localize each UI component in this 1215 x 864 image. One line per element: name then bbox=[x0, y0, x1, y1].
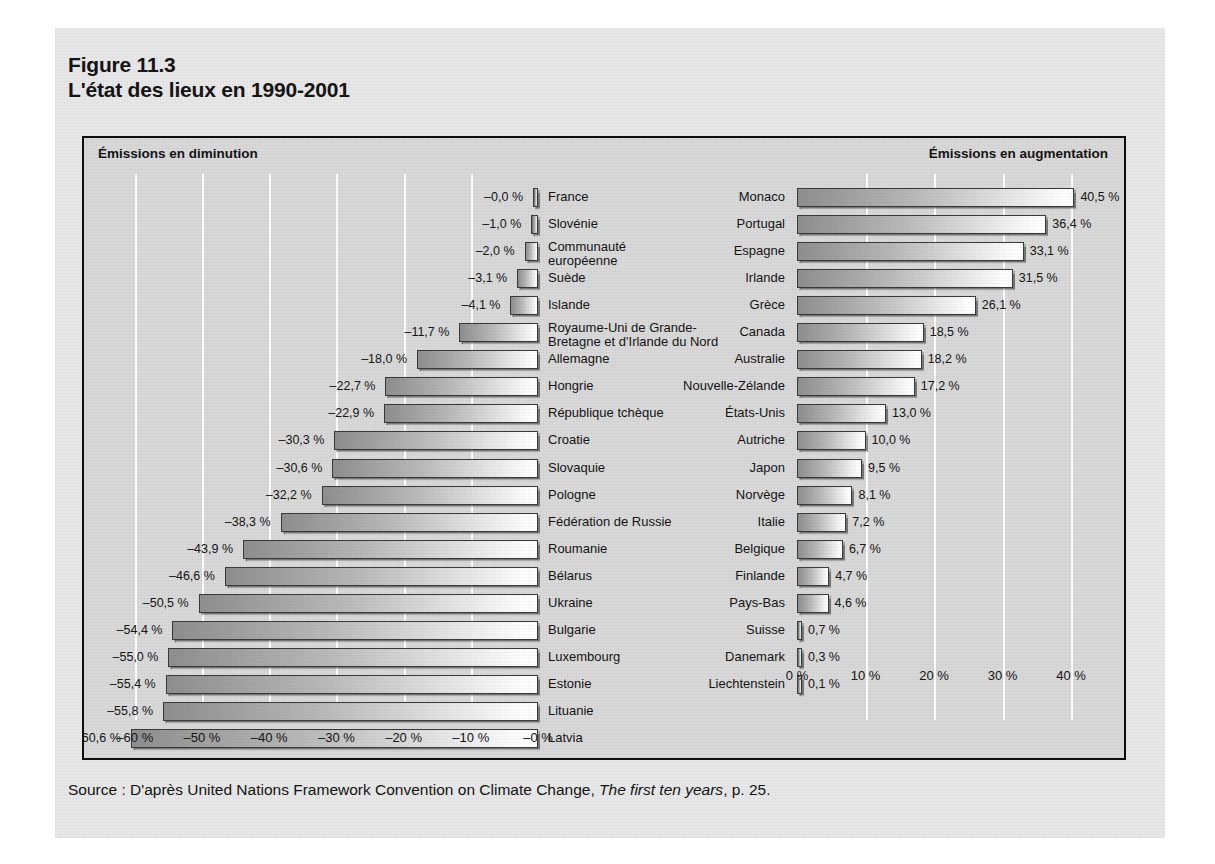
x-tick-increasing: 20 % bbox=[919, 668, 949, 683]
bar-row-increasing: 7,2 %Italie bbox=[84, 513, 1124, 532]
bar-Norvège bbox=[797, 486, 852, 505]
bar-row-increasing: 0,7 %Suisse bbox=[84, 621, 1124, 640]
bar-row-increasing: 4,7 %Finlande bbox=[84, 567, 1124, 586]
bar-Nouvelle-Zélande bbox=[797, 377, 915, 396]
bar-label-Pays-Bas: Pays-Bas bbox=[729, 596, 785, 610]
bar-value-Nouvelle-Zélande: 17,2 % bbox=[921, 377, 960, 396]
bar-Danemark bbox=[797, 648, 802, 667]
source-note: Source : D'après United Nations Framewor… bbox=[68, 780, 771, 800]
bar-label-Danemark: Danemark bbox=[725, 650, 785, 664]
bar-label-Suisse: Suisse bbox=[746, 623, 785, 637]
bar-Lituanie bbox=[163, 702, 538, 721]
bar-value-Espagne: 33,1 % bbox=[1030, 242, 1069, 261]
bar-label-Italie: Italie bbox=[758, 515, 785, 529]
figure-number: Figure 11.3 bbox=[68, 53, 176, 76]
bar-label-Canada: Canada bbox=[739, 325, 785, 339]
bar-row-decreasing: –60,6 %Latvia bbox=[84, 729, 1124, 748]
bar-row-increasing: 10,0 %Autriche bbox=[84, 431, 1124, 450]
bar-Irlande bbox=[797, 269, 1013, 288]
figure-heading: Figure 11.3 L'état des lieux en 1990-200… bbox=[68, 52, 350, 102]
bar-value-Latvia: –60,6 % bbox=[82, 729, 121, 748]
page-title: L'état des lieux en 1990-2001 bbox=[68, 77, 350, 102]
bar-row-increasing: 9,5 %Japon bbox=[84, 459, 1124, 478]
bar-value-Italie: 7,2 % bbox=[852, 513, 884, 532]
panel-title-increasing: Émissions en augmentation bbox=[929, 146, 1108, 161]
bar-row-increasing: 36,4 %Portugal bbox=[84, 215, 1124, 234]
x-tick-increasing: 30 % bbox=[988, 668, 1018, 683]
bar-value-Irlande: 31,5 % bbox=[1019, 269, 1058, 288]
bar-value-Monaco: 40,5 % bbox=[1080, 188, 1119, 207]
bar-value-Canada: 18,5 % bbox=[930, 323, 969, 342]
bar-label-Portugal: Portugal bbox=[737, 217, 785, 231]
bar-value-Lituanie: –55,8 % bbox=[107, 702, 153, 721]
source-title: The first ten years bbox=[599, 781, 723, 798]
x-tick-decreasing: –20 % bbox=[385, 730, 422, 745]
bar-row-increasing: 4,6 %Pays-Bas bbox=[84, 594, 1124, 613]
bar-Pays-Bas bbox=[797, 594, 829, 613]
bar-row-increasing: 33,1 %Espagne bbox=[84, 242, 1124, 261]
x-tick-decreasing: –60 % bbox=[116, 730, 153, 745]
bar-row-increasing: 0,3 %Danemark bbox=[84, 648, 1124, 667]
bar-value-Pays-Bas: 4,6 % bbox=[835, 594, 867, 613]
bar-row-increasing: 13,0 %États-Unis bbox=[84, 404, 1124, 423]
bar-Belgique bbox=[797, 540, 843, 559]
bar-label-Japon: Japon bbox=[750, 461, 785, 475]
bar-label-Irlande: Irlande bbox=[745, 271, 785, 285]
bar-label-Norvège: Norvège bbox=[736, 488, 785, 502]
bar-Portugal bbox=[797, 215, 1046, 234]
bar-label-Lituanie: Lituanie bbox=[548, 704, 594, 718]
x-tick-increasing: 40 % bbox=[1056, 668, 1086, 683]
bar-value-Australie: 18,2 % bbox=[928, 350, 967, 369]
bar-Espagne bbox=[797, 242, 1024, 261]
chart-plot-area: Émissions en diminution Émissions en aug… bbox=[82, 136, 1126, 760]
bar-row-decreasing: –55,8 %Lituanie bbox=[84, 702, 1124, 721]
x-tick-decreasing: –50 % bbox=[184, 730, 221, 745]
bar-label-Belgique: Belgique bbox=[734, 542, 785, 556]
bar-row-increasing: 6,7 %Belgique bbox=[84, 540, 1124, 559]
bar-row-increasing: 18,5 %Canada bbox=[84, 323, 1124, 342]
bar-value-Suisse: 0,7 % bbox=[808, 621, 840, 640]
bar-row-increasing: 40,5 %Monaco bbox=[84, 188, 1124, 207]
bar-Canada bbox=[797, 323, 924, 342]
source-suffix: , p. 25. bbox=[723, 781, 770, 798]
bar-Italie bbox=[797, 513, 846, 532]
bar-value-Liechtenstein: 0,1 % bbox=[808, 675, 840, 694]
source-prefix: Source : D'après United Nations Framewor… bbox=[68, 781, 599, 798]
bar-label-Autriche: Autriche bbox=[737, 433, 785, 447]
bar-label-Espagne: Espagne bbox=[734, 244, 785, 258]
bar-row-increasing: 0,1 %Liechtenstein bbox=[84, 675, 1124, 694]
bar-value-Belgique: 6,7 % bbox=[849, 540, 881, 559]
bar-value-Norvège: 8,1 % bbox=[858, 486, 890, 505]
bar-row-increasing: 8,1 %Norvège bbox=[84, 486, 1124, 505]
panel-title-decreasing: Émissions en diminution bbox=[98, 146, 258, 161]
bar-value-Danemark: 0,3 % bbox=[808, 648, 840, 667]
bar-Finlande bbox=[797, 567, 829, 586]
x-tick-increasing: 0 % bbox=[786, 668, 808, 683]
bar-value-Grèce: 26,1 % bbox=[982, 296, 1021, 315]
bar-row-increasing: 18,2 %Australie bbox=[84, 350, 1124, 369]
bar-row-increasing: 31,5 %Irlande bbox=[84, 269, 1124, 288]
figure-root: Figure 11.3 L'état des lieux en 1990-200… bbox=[0, 0, 1215, 864]
bar-label-Finlande: Finlande bbox=[735, 569, 785, 583]
x-tick-decreasing: –10 % bbox=[452, 730, 489, 745]
bar-États-Unis bbox=[797, 404, 886, 423]
x-tick-increasing: 10 % bbox=[851, 668, 881, 683]
bar-value-Finlande: 4,7 % bbox=[835, 567, 867, 586]
x-tick-decreasing: –40 % bbox=[251, 730, 288, 745]
bar-Japon bbox=[797, 459, 862, 478]
bar-label-Monaco: Monaco bbox=[739, 190, 785, 204]
bar-value-Japon: 9,5 % bbox=[868, 459, 900, 478]
bar-Autriche bbox=[797, 431, 866, 450]
bar-value-Autriche: 10,0 % bbox=[872, 431, 911, 450]
bar-label-États-Unis: États-Unis bbox=[725, 406, 785, 420]
x-tick-decreasing: –0 % bbox=[523, 730, 553, 745]
bar-Monaco bbox=[797, 188, 1074, 207]
x-tick-decreasing: –30 % bbox=[318, 730, 355, 745]
bar-Suisse bbox=[797, 621, 802, 640]
bar-label-Liechtenstein: Liechtenstein bbox=[708, 677, 785, 691]
bar-label-Nouvelle-Zélande: Nouvelle-Zélande bbox=[683, 379, 785, 393]
bar-label-Grèce: Grèce bbox=[750, 298, 785, 312]
bar-Grèce bbox=[797, 296, 976, 315]
bar-label-Australie: Australie bbox=[734, 352, 785, 366]
bar-value-États-Unis: 13,0 % bbox=[892, 404, 931, 423]
